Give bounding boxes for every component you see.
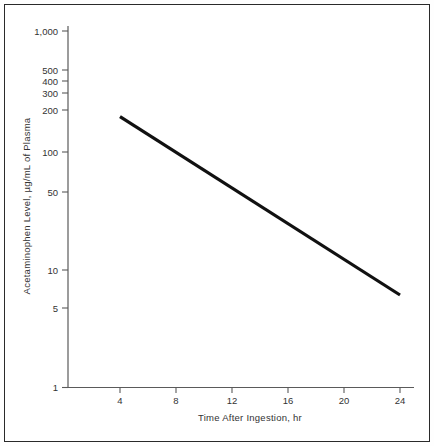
figure-root: 1,000 500 400 300 200 100 50 10 5 1 4 8 … bbox=[0, 0, 434, 446]
y-tick-label-300: 300 bbox=[42, 88, 58, 99]
y-tick-label-1: 1 bbox=[53, 382, 58, 393]
x-tick-label-8: 8 bbox=[173, 395, 178, 406]
y-tick-label-1000: 1,000 bbox=[34, 26, 58, 37]
y-tick-label-5: 5 bbox=[53, 303, 58, 314]
x-tick-label-16: 16 bbox=[283, 395, 294, 406]
y-tick-label-50: 50 bbox=[47, 187, 58, 198]
x-tick-label-24: 24 bbox=[395, 395, 406, 406]
x-tick-label-4: 4 bbox=[117, 395, 122, 406]
y-tick-label-400: 400 bbox=[42, 76, 58, 87]
y-tick-label-500: 500 bbox=[42, 65, 58, 76]
treatment-line-series bbox=[120, 117, 400, 295]
y-axis-title: Acetaminophen Level, µg/mL of Plasma bbox=[21, 117, 32, 294]
y-tick-label-200: 200 bbox=[42, 105, 58, 116]
y-tick-label-100: 100 bbox=[42, 147, 58, 158]
acetaminophen-nomogram-chart: 1,000 500 400 300 200 100 50 10 5 1 4 8 … bbox=[0, 0, 434, 446]
x-tick-label-12: 12 bbox=[227, 395, 238, 406]
x-axis-title: Time After Ingestion, hr bbox=[198, 412, 302, 423]
x-tick-label-20: 20 bbox=[339, 395, 350, 406]
y-tick-label-10: 10 bbox=[47, 265, 58, 276]
